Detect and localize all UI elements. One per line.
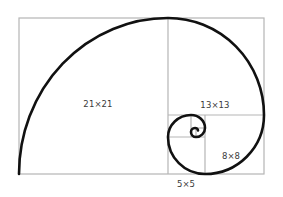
label-21x21: 21×21 xyxy=(83,99,112,109)
fibonacci-spiral-diagram: 21×21 13×13 8×8 5×5 xyxy=(0,0,283,197)
spiral-graphic xyxy=(0,0,283,197)
label-5x5: 5×5 xyxy=(177,179,195,189)
label-13x13: 13×13 xyxy=(200,100,229,110)
label-8x8: 8×8 xyxy=(222,151,240,161)
